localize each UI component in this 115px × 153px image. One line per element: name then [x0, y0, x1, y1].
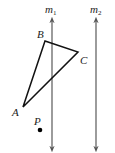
vertex-c-label: C: [80, 54, 88, 66]
line-m1-label: m1: [45, 3, 57, 17]
vertex-b-label: B: [37, 28, 44, 40]
line-m2-label: m2: [90, 3, 102, 17]
point-p-label: P: [33, 115, 41, 127]
point-p: [38, 128, 43, 133]
line-m1: m1: [45, 3, 57, 149]
diagram-canvas: m1 m2 B C A P: [0, 0, 115, 153]
vertex-a-label: A: [11, 106, 19, 118]
reflection-diagram: m1 m2 B C A P: [0, 0, 115, 153]
line-m2: m2: [90, 3, 102, 149]
triangle-abc: [23, 41, 78, 107]
